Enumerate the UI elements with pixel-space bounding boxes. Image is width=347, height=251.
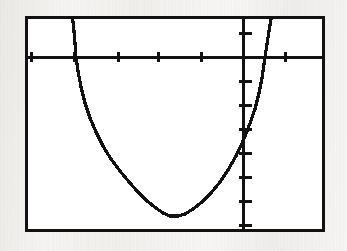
calculator-screen-frame — [25, 16, 325, 232]
x-axis-group — [28, 52, 322, 62]
graph-svg — [28, 19, 322, 229]
y-axis-ticks — [239, 33, 252, 225]
graph-plot-area[interactable] — [28, 19, 322, 229]
screenshot-root — [0, 0, 347, 251]
